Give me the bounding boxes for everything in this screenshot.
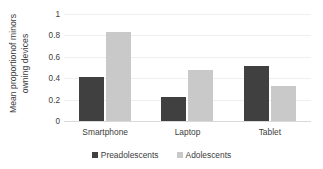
bar-laptop-adolescents[interactable] — [188, 70, 213, 121]
y-axis-title: Mean proportionof minors owning devices — [0, 0, 40, 126]
chart-legend: PreadolescentsAdolescents — [0, 148, 323, 162]
y-axis-tick-label: 0.8 — [38, 31, 60, 40]
y-axis-tick-label: 0.4 — [38, 74, 60, 83]
legend-entry-adolescents[interactable]: Adolescents — [177, 150, 232, 160]
x-axis-line — [64, 121, 311, 122]
y-axis-tick-label: 0 — [38, 117, 60, 126]
plot-area — [64, 14, 311, 121]
y-axis-tick-label: 0.2 — [38, 95, 60, 104]
x-axis-tick-label: Smartphone — [64, 124, 146, 140]
legend-entry-preadolescents[interactable]: Preadolescents — [92, 150, 159, 160]
bar-chart-figure: Mean proportionof minors owning devices … — [0, 0, 323, 169]
y-axis-title-line-2: owning devices — [20, 13, 32, 112]
y-axis-tick-label: 1 — [38, 10, 60, 19]
bar-group — [64, 14, 146, 121]
bar-smartphone-adolescents[interactable] — [106, 32, 131, 121]
x-axis-tick-label: Tablet — [229, 124, 311, 140]
y-axis-title-line-1: Mean proportionof minors — [9, 13, 21, 112]
legend-label: Preadolescents — [101, 150, 159, 160]
y-axis-tick-label: 0.6 — [38, 52, 60, 61]
legend-swatch-icon — [177, 152, 183, 158]
bar-tablet-preadolescents[interactable] — [244, 66, 269, 121]
legend-swatch-icon — [92, 152, 98, 158]
bars-layer — [64, 14, 311, 121]
bar-group — [229, 14, 311, 121]
legend-label: Adolescents — [186, 150, 232, 160]
bar-group — [146, 14, 228, 121]
bar-smartphone-preadolescents[interactable] — [79, 77, 104, 121]
bar-tablet-adolescents[interactable] — [271, 86, 296, 121]
x-axis-tick-label: Laptop — [146, 124, 228, 140]
bar-laptop-preadolescents[interactable] — [161, 97, 186, 121]
x-axis-tick-labels: SmartphoneLaptopTablet — [64, 124, 311, 140]
y-axis-tick-labels: 00.20.40.60.81 — [38, 0, 60, 126]
